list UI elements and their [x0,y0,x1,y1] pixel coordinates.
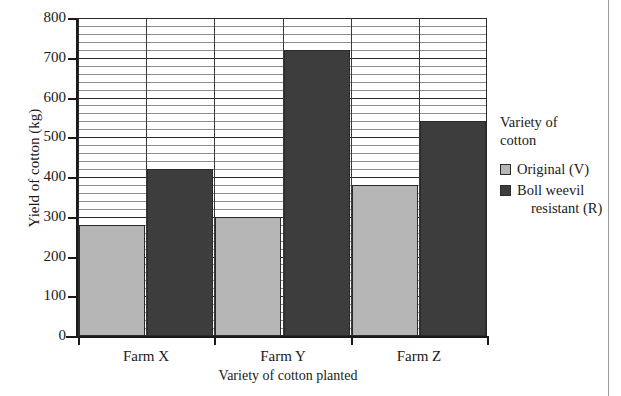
y-axis-title: Yield of cotton (kg) [26,88,42,248]
y-tick-label: 100 [10,288,66,303]
bar-farm-y-series-1 [215,217,281,336]
legend-title-line-1: Variety of [500,114,558,130]
legend-entry-2: Boll weevilresistant (R) [500,181,605,217]
legend-entry-1: Original (V) [500,160,605,178]
y-tick-mark [68,217,77,219]
x-tick-mark [214,337,216,345]
x-tick-mark [487,337,489,345]
x-axis-line [66,336,489,338]
y-tick-mark [68,137,77,139]
page-vertical-rule [608,0,609,396]
bar-chart-figure: 0100200300400500600700800 Farm XFarm YFa… [0,0,621,396]
legend-entries: Original (V)Boll weevilresistant (R) [500,160,605,217]
y-tick-label-text: 700 [14,50,66,65]
bar-farm-x-series-1 [79,225,145,336]
y-tick-label: 0 [10,328,66,343]
x-tick-mark [78,337,80,345]
legend-label-2: Boll weevilresistant (R) [517,181,602,217]
legend: Variety of cotton Original (V)Boll weevi… [500,113,605,220]
x-category-label-farm-x: Farm X [86,347,206,365]
x-axis-title: Variety of cotton planted [178,368,398,384]
bar-farm-z-series-2 [420,121,486,336]
x-category-label-farm-z: Farm Z [359,347,479,365]
x-category-label-farm-y: Farm Y [223,347,343,365]
bar-farm-z-series-1 [352,185,418,336]
y-tick-mark [68,257,77,259]
y-tick-label: 800 [10,10,66,25]
y-tick-label: 200 [10,249,66,264]
y-tick-mark [68,177,77,179]
y-tick-label: 700 [10,50,66,65]
legend-swatch-dark [500,185,511,196]
legend-title: Variety of cotton [500,113,605,149]
y-tick-mark [68,58,77,60]
plot-area [78,18,487,336]
x-tick-mark [351,337,353,345]
y-tick-mark [68,18,77,20]
legend-label-continuation-2: resistant (R) [517,199,602,217]
y-tick-mark [68,296,77,298]
y-tick-label-text: 200 [14,249,66,264]
bar-farm-y-series-2 [284,50,350,336]
legend-label-1: Original (V) [517,160,589,178]
legend-swatch-light [500,164,511,175]
y-tick-label-text: 800 [14,10,66,25]
y-tick-mark [68,336,77,338]
bar-farm-x-series-2 [147,169,213,336]
y-tick-mark [68,98,77,100]
y-tick-label-text: 100 [14,288,66,303]
legend-title-line-2: cotton [500,132,536,148]
y-tick-label-text: 0 [14,328,66,343]
